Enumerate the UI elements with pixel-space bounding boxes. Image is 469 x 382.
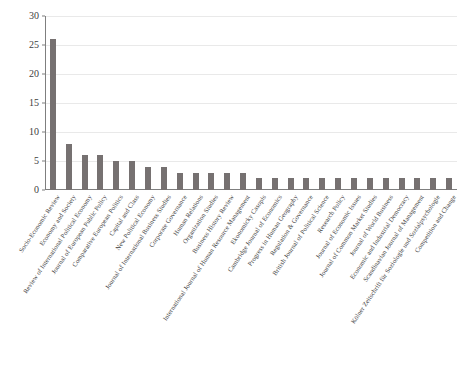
bar[interactable] xyxy=(446,178,452,190)
bar[interactable] xyxy=(256,178,262,190)
bar-slot xyxy=(362,16,378,190)
bar-slot xyxy=(45,16,61,190)
bar[interactable] xyxy=(335,178,341,190)
bar-slot xyxy=(188,16,204,190)
bar[interactable] xyxy=(288,178,294,190)
bar[interactable] xyxy=(97,155,103,190)
bar[interactable] xyxy=(430,178,436,190)
bar-slot xyxy=(61,16,77,190)
bar-series xyxy=(45,16,457,190)
bar-chart-figure: 051015202530 Socio-Economic ReviewEconom… xyxy=(0,0,469,382)
bar[interactable] xyxy=(383,178,389,190)
y-axis-tick-label: 20 xyxy=(29,69,39,79)
bar[interactable] xyxy=(399,178,405,190)
bar-slot xyxy=(378,16,394,190)
bar[interactable] xyxy=(367,178,373,190)
bar-slot xyxy=(77,16,93,190)
bar[interactable] xyxy=(272,178,278,190)
bar[interactable] xyxy=(82,155,88,190)
plot-area: 051015202530 xyxy=(45,16,457,190)
y-axis-tick-label: 0 xyxy=(34,185,39,195)
bar-slot xyxy=(93,16,109,190)
bar-slot xyxy=(267,16,283,190)
bar[interactable] xyxy=(240,173,246,190)
bar-slot xyxy=(409,16,425,190)
y-axis-tick-label: 10 xyxy=(29,127,39,137)
bar-slot xyxy=(172,16,188,190)
bar[interactable] xyxy=(193,173,199,190)
bar-slot xyxy=(124,16,140,190)
bar[interactable] xyxy=(145,167,151,190)
bar[interactable] xyxy=(113,161,119,190)
bar-slot xyxy=(283,16,299,190)
bar-slot xyxy=(235,16,251,190)
bar-slot xyxy=(219,16,235,190)
x-axis-category-labels: Socio-Economic ReviewEconomy and Society… xyxy=(45,192,457,352)
bar[interactable] xyxy=(50,39,56,190)
bar-slot xyxy=(346,16,362,190)
bar-slot xyxy=(330,16,346,190)
bar[interactable] xyxy=(129,161,135,190)
bar-slot xyxy=(203,16,219,190)
bar[interactable] xyxy=(177,173,183,190)
y-axis-tick-label: 5 xyxy=(34,156,39,166)
bar[interactable] xyxy=(303,178,309,190)
bar-slot xyxy=(314,16,330,190)
bar[interactable] xyxy=(208,173,214,190)
bar-slot xyxy=(156,16,172,190)
bar-slot xyxy=(251,16,267,190)
y-axis-tick-label: 30 xyxy=(29,11,39,21)
bar[interactable] xyxy=(224,173,230,190)
bar-slot xyxy=(425,16,441,190)
bar-slot xyxy=(394,16,410,190)
bar-slot xyxy=(140,16,156,190)
bar-slot xyxy=(108,16,124,190)
bar[interactable] xyxy=(414,178,420,190)
bar-slot xyxy=(441,16,457,190)
y-axis-tick-label: 25 xyxy=(29,40,39,50)
bar-slot xyxy=(299,16,315,190)
bar[interactable] xyxy=(351,178,357,190)
bar[interactable] xyxy=(319,178,325,190)
bar[interactable] xyxy=(161,167,167,190)
bar[interactable] xyxy=(66,144,72,190)
y-axis-tick-label: 15 xyxy=(29,98,39,108)
